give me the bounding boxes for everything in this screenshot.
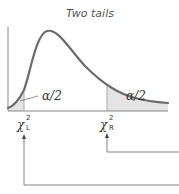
left-tail-label: α/2 [42, 89, 62, 103]
two-tails-chi-square-diagram: Two tails α/2 α/2 χ 2 L χ 2 R [0, 0, 179, 194]
svg-text:L: L [26, 124, 30, 132]
svg-text:χ: χ [99, 118, 108, 132]
svg-text:χ: χ [16, 118, 25, 132]
svg-text:R: R [109, 124, 114, 132]
svg-text:2: 2 [26, 114, 30, 122]
right-callout-arrow [105, 133, 179, 152]
svg-text:2: 2 [109, 114, 113, 122]
right-tail-label: α/2 [126, 89, 146, 103]
right-critical-label: χ 2 R [99, 114, 114, 132]
left-critical-label: χ 2 L [16, 114, 30, 132]
left-callout-arrow [22, 134, 179, 185]
diagram-title: Two tails [66, 7, 114, 20]
